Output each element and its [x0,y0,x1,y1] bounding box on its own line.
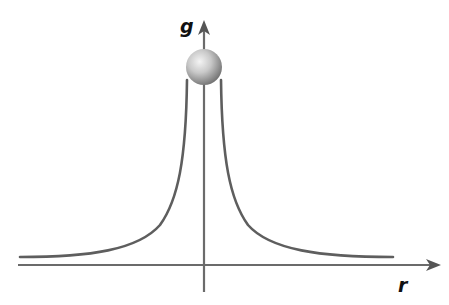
field-curve-left [20,80,187,257]
r-axis [18,259,441,271]
r-axis-label: r [398,274,409,296]
field-curve-right [221,80,393,257]
diagram-svg: g r [0,0,449,305]
mass-sphere [186,49,222,85]
g-axis-label: g [180,15,194,37]
gravity-field-diagram: g r [0,0,449,305]
